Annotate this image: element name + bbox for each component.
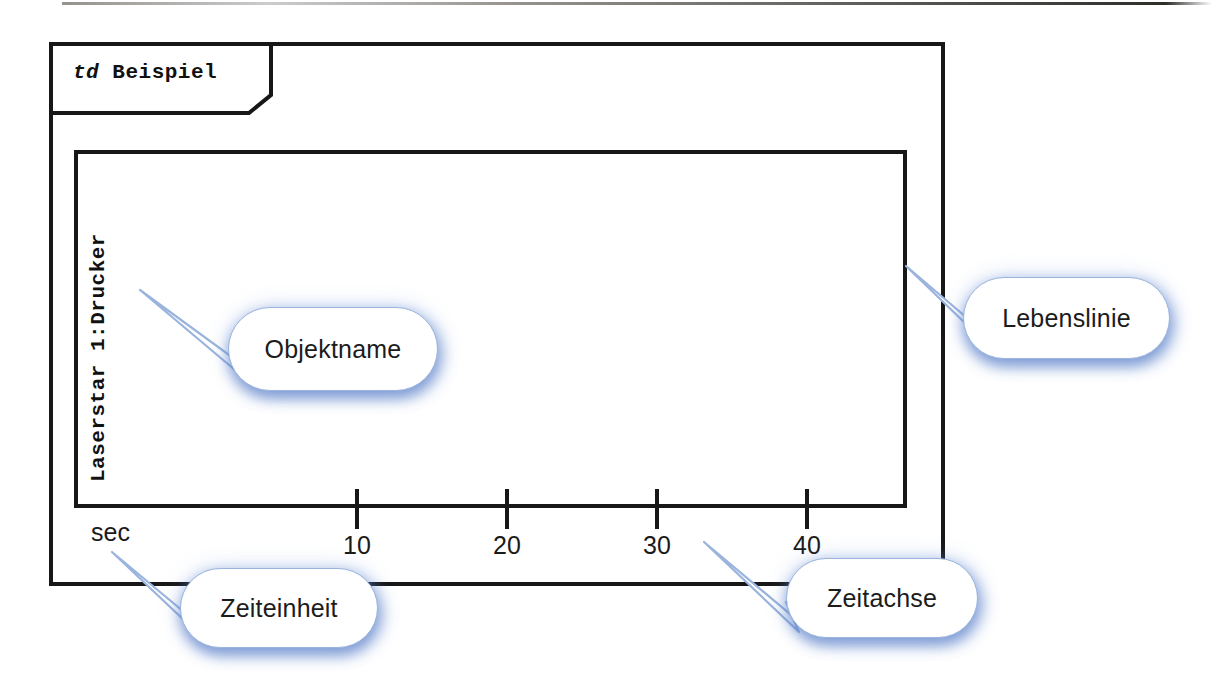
frame-name-tab-label: td Beispiel xyxy=(73,61,217,84)
axis-tick-label-30: 30 xyxy=(643,531,671,560)
scan-edge-artifact xyxy=(62,2,1212,5)
axis-tick-label-20: 20 xyxy=(493,531,521,560)
axis-unit-label: sec xyxy=(91,518,130,547)
callout-label-zeiteinheit: Zeiteinheit xyxy=(220,594,338,623)
frame-kind-keyword: td xyxy=(73,61,99,84)
callout-label-objektname: Objektname xyxy=(265,335,402,364)
callout-bubble-lebenslinie[interactable]: Lebenslinie xyxy=(963,277,1170,359)
diagram-canvas: td Beispiel Laserstar 1:Drucker 10 20 30… xyxy=(0,0,1221,680)
callout-label-zeitachse: Zeitachse xyxy=(827,584,937,613)
axis-tick-30 xyxy=(655,489,659,529)
lifeline-object-name: Laserstar 1:Drucker xyxy=(74,150,122,508)
frame-diagram-name: Beispiel xyxy=(112,61,217,84)
callout-bubble-zeiteinheit[interactable]: Zeiteinheit xyxy=(180,568,378,648)
frame-name-tab: td Beispiel xyxy=(49,42,275,117)
axis-tick-20 xyxy=(505,489,509,529)
axis-tick-label-10: 10 xyxy=(343,531,371,560)
callout-bubble-zeitachse[interactable]: Zeitachse xyxy=(786,558,978,638)
callout-label-lebenslinie: Lebenslinie xyxy=(1002,304,1131,333)
callout-bubble-objektname[interactable]: Objektname xyxy=(228,307,438,391)
axis-tick-10 xyxy=(355,489,359,529)
axis-tick-40 xyxy=(805,489,809,529)
